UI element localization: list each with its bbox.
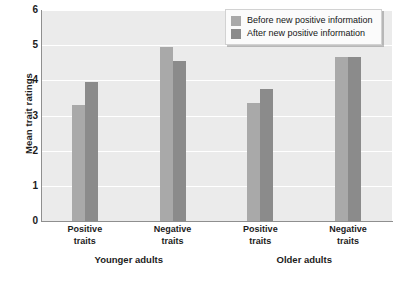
chart-legend: Before new positive information After ne…: [225, 9, 382, 45]
x-axis-category-labels: PositivetraitsNegativetraitsPositivetrai…: [41, 224, 392, 252]
x-axis-category-label: Negativetraits: [154, 224, 192, 247]
x-axis-category-label: Negativetraits: [329, 224, 367, 247]
legend-label-before: Before new positive information: [247, 15, 373, 26]
bar: [247, 103, 260, 221]
y-axis-tick-label: 0: [32, 216, 38, 226]
bar: [335, 57, 348, 221]
legend-swatch-after-icon: [231, 29, 241, 39]
legend-item-after: After new positive information: [231, 27, 373, 40]
x-axis-category-label-line: traits: [243, 236, 278, 248]
y-axis-tick-labels: 0123456: [22, 0, 38, 282]
legend-swatch-before-icon: [231, 16, 241, 26]
x-axis-category-label-line: traits: [154, 236, 192, 248]
x-axis-line: [41, 221, 393, 222]
bar: [72, 105, 85, 221]
bar: [260, 89, 273, 221]
bar: [348, 57, 361, 221]
y-axis-line: [41, 10, 42, 222]
x-axis-category-label-line: traits: [68, 236, 103, 248]
bar-chart: Mean trait ratings 0123456 Before new po…: [0, 0, 403, 282]
legend-label-after: After new positive information: [247, 28, 365, 39]
x-axis-group-label: Younger adults: [95, 254, 163, 265]
x-axis-category-label: Positivetraits: [243, 224, 278, 247]
y-axis-tick-label: 4: [32, 75, 38, 85]
x-axis-category-label-line: traits: [329, 236, 367, 248]
y-axis-tick-label: 1: [32, 181, 38, 191]
x-axis-group-labels: Younger adultsOlder adults: [41, 254, 392, 270]
bar: [160, 47, 173, 221]
x-axis-category-label-line: Negative: [154, 224, 192, 236]
y-axis-tick-label: 3: [32, 111, 38, 121]
gridline: [41, 45, 392, 46]
y-axis-tick-label: 6: [32, 5, 38, 15]
x-axis-category-label: Positivetraits: [68, 224, 103, 247]
x-axis-category-label-line: Negative: [329, 224, 367, 236]
x-axis-category-label-line: Positive: [243, 224, 278, 236]
bar: [173, 61, 186, 221]
x-axis-group-label: Older adults: [277, 254, 332, 265]
y-axis-tick-label: 5: [32, 40, 38, 50]
legend-item-before: Before new positive information: [231, 14, 373, 27]
x-axis-category-label-line: Positive: [68, 224, 103, 236]
y-axis-tick-label: 2: [32, 146, 38, 156]
bar: [85, 82, 98, 221]
